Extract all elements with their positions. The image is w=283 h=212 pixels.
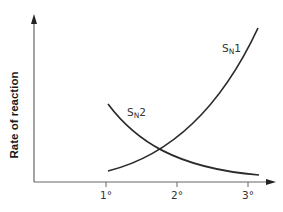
sn2-label: SN2 <box>127 106 146 120</box>
x-tick-label-1: 1° <box>100 189 112 201</box>
y-axis-arrow-icon <box>31 14 37 24</box>
x-axis-arrow-icon <box>266 179 276 185</box>
sn2-label-main: S <box>127 106 134 118</box>
sn2-label-num: 2 <box>139 106 146 118</box>
sn1-label-num: 1 <box>234 42 241 54</box>
y-axis-label: Rate of reaction <box>8 60 24 170</box>
sn1-label: SN1 <box>222 42 241 56</box>
sn1-label-main: S <box>222 42 229 54</box>
x-tick-label-2: 2° <box>171 189 183 201</box>
x-tick-label-3: 3° <box>242 189 254 201</box>
chart: Rate of reaction 1° 2° 3° SN1 SN2 <box>0 0 283 212</box>
